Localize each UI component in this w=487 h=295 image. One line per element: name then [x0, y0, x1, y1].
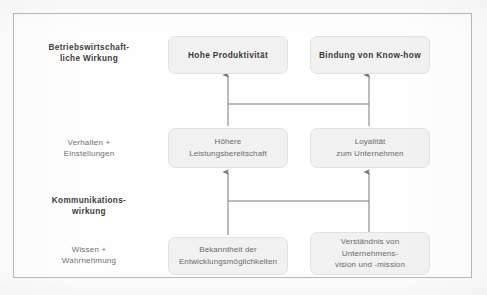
row-label-line-2: Wahrnehmung [14, 256, 164, 267]
node-text-line-2: zum Unternehmen [336, 149, 403, 158]
node-bindung-von-know-how[interactable]: Bindung von Know-how [310, 36, 430, 74]
row-label-line-1: Kommunikations- [14, 195, 164, 206]
node-text: Verständnis von Unternehmens- vision und… [316, 236, 424, 271]
row-label-line-1: Verhalten + [14, 138, 164, 149]
row-label-line-1: Betriebswirtschaft- [14, 42, 164, 53]
node-text: Loyalität zum Unternehmen [316, 136, 424, 159]
node-text-line-2: Leistungsbereitschaft [189, 149, 267, 158]
node-text-line-3: vision und -mission [335, 260, 405, 269]
node-text-line-1: Bekanntheit der [199, 245, 257, 254]
node-bekanntheit-der-entwicklungsmoeglichkeiten[interactable]: Bekanntheit der Entwicklungsmöglichkeite… [168, 237, 288, 275]
node-text-line-2: Unternehmens- [342, 249, 398, 258]
node-loyalitaet-zum-unternehmen[interactable]: Loyalität zum Unternehmen [310, 128, 430, 168]
node-text: Hohe Produktivität [174, 49, 282, 61]
node-hoehere-leistungsbereitschaft[interactable]: Höhere Leistungsbereitschaft [168, 128, 288, 168]
node-text: Höhere Leistungsbereitschaft [174, 136, 282, 159]
node-hohe-produktivitaet[interactable]: Hohe Produktivität [168, 36, 288, 74]
node-verstaendnis-von-unternehmensvision-und-mission[interactable]: Verständnis von Unternehmens- vision und… [310, 232, 430, 275]
diagram-page: Betriebswirtschaft- liche Wirkung Verhal… [0, 0, 487, 295]
node-text-line-1: Verständnis von [341, 237, 399, 246]
row-label-line-2: Einstellungen [14, 149, 164, 160]
node-text-line-1: Loyalität [355, 137, 386, 146]
node-text-line-1: Höhere [215, 137, 242, 146]
row-label-kommunikationswirkung: Kommunikations- wirkung [14, 195, 164, 217]
row-label-wissen-wahrnehmung: Wissen + Wahrnehmung [14, 245, 164, 267]
row-label-line-1: Wissen + [14, 245, 164, 256]
node-text: Bindung von Know-how [316, 49, 424, 61]
row-label-line-2: liche Wirkung [14, 53, 164, 64]
node-text-line-2: Entwicklungsmöglichkeiten [179, 257, 277, 266]
node-text: Bekanntheit der Entwicklungsmöglichkeite… [174, 244, 282, 267]
row-label-line-2: wirkung [14, 206, 164, 217]
row-label-verhalten-einstellungen: Verhalten + Einstellungen [14, 138, 164, 160]
row-label-betriebswirtschaftliche-wirkung: Betriebswirtschaft- liche Wirkung [14, 42, 164, 64]
